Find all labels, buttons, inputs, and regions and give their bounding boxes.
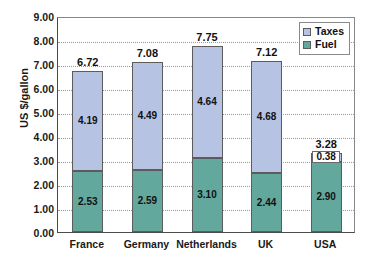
x-tick-label: Germany: [117, 238, 177, 250]
bar-stack: 2.900.383.28: [311, 153, 342, 232]
x-tick-label: USA: [295, 238, 355, 250]
bar-group[interactable]: 2.534.196.72: [72, 18, 103, 232]
bar-stack: 3.104.647.75: [192, 46, 223, 232]
bar-segment-label: 3.10: [197, 190, 216, 200]
bar-segment-taxes[interactable]: 0.38: [311, 153, 342, 162]
bar-segment-taxes[interactable]: 4.64: [192, 46, 223, 157]
y-tick-label: 1.00: [14, 203, 54, 215]
bar-segment-label: 2.90: [316, 192, 335, 202]
bar-segment-fuel[interactable]: 3.10: [192, 158, 223, 232]
y-tick-label: 4.00: [14, 131, 54, 143]
legend-label: Fuel: [315, 39, 337, 50]
bar-total-label: 3.28: [297, 138, 356, 150]
y-tick-label: 7.00: [14, 59, 54, 71]
x-tick-label: France: [57, 238, 117, 250]
bar-segment-taxes[interactable]: 4.19: [72, 71, 103, 172]
bar-stack: 2.534.196.72: [72, 71, 103, 232]
bar-segment-label: 2.44: [257, 198, 276, 208]
bar-total-label: 7.75: [178, 31, 237, 43]
bar-group[interactable]: 2.444.687.12: [251, 18, 282, 232]
bar-segment-fuel[interactable]: 2.90: [311, 162, 342, 232]
bar-total-label: 7.12: [237, 46, 296, 58]
y-axis-tick-labels: 0.001.002.003.004.005.006.007.008.009.00: [14, 17, 54, 233]
y-tick-label: 5.00: [14, 107, 54, 119]
bar-stack: 2.444.687.12: [251, 61, 282, 232]
bar-segment-label: 4.19: [78, 116, 97, 126]
stacked-bar-chart: US $/gallon 0.001.002.003.004.005.006.00…: [0, 0, 367, 264]
bar-total-label: 7.08: [118, 47, 177, 59]
bar-group[interactable]: 3.104.647.75: [192, 18, 223, 232]
x-tick-label: UK: [236, 238, 296, 250]
bar-segment-fuel[interactable]: 2.59: [132, 170, 163, 232]
bar-segment-label: 2.59: [138, 196, 157, 206]
legend-item[interactable]: Taxes: [303, 25, 344, 38]
bar-segment-taxes[interactable]: 4.49: [132, 62, 163, 170]
bar-total-label: 6.72: [58, 56, 117, 68]
x-axis-tick-labels: FranceGermanyNetherlandsUKUSA: [57, 238, 355, 258]
legend-item[interactable]: Fuel: [303, 38, 344, 51]
legend-swatch-icon: [303, 28, 311, 36]
bar-segment-label: 0.38: [312, 151, 339, 163]
legend-label: Taxes: [315, 26, 344, 37]
bar-segment-label: 4.68: [257, 112, 276, 122]
bar-stack: 2.594.497.08: [132, 62, 163, 232]
y-tick-label: 3.00: [14, 155, 54, 167]
x-tick-label: Netherlands: [176, 238, 236, 250]
bar-segment-fuel[interactable]: 2.44: [251, 173, 282, 232]
chart-legend: TaxesFuel: [299, 22, 350, 55]
bar-segment-label: 4.49: [138, 111, 157, 121]
bar-segment-label: 2.53: [78, 197, 97, 207]
y-tick-label: 6.00: [14, 83, 54, 95]
bar-group[interactable]: 2.594.497.08: [132, 18, 163, 232]
y-tick-label: 0.00: [14, 227, 54, 239]
y-tick-label: 2.00: [14, 179, 54, 191]
legend-swatch-icon: [303, 41, 311, 49]
bar-segment-label: 4.64: [197, 97, 216, 107]
y-tick-label: 9.00: [14, 11, 54, 23]
y-tick-label: 8.00: [14, 35, 54, 47]
bar-segment-taxes[interactable]: 4.68: [251, 61, 282, 173]
bar-segment-fuel[interactable]: 2.53: [72, 171, 103, 232]
